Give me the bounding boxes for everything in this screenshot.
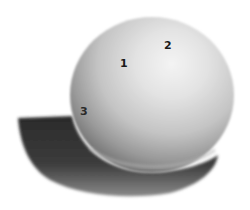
sphere-drawing [0,0,250,210]
label-1: 1 [120,58,128,69]
label-3: 3 [80,106,88,117]
sphere [70,17,234,173]
sphere-illustration: 1 2 3 [0,0,250,210]
label-2: 2 [164,40,172,51]
